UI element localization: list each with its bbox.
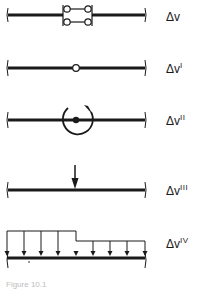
beam-end-right-icon (145, 8, 146, 22)
label-delta-v: Δv (166, 9, 180, 24)
label-superscript: II (180, 113, 185, 122)
distributed-load-arrowheads-icon (5, 251, 148, 256)
figure-caption: Figure 10.1 (6, 280, 46, 289)
beam-end-left-icon (7, 112, 8, 128)
label-base: Δv (166, 10, 180, 24)
row-sliding-link (7, 5, 146, 26)
label-delta-v-ii: ΔvII (166, 113, 185, 128)
label-delta-v-iii: ΔvIII (166, 183, 188, 198)
sliding-link-icon (63, 5, 92, 26)
label-delta-v-i: ΔvI (166, 61, 183, 76)
beam-end-left-icon (7, 8, 8, 22)
label-delta-v-iv: ΔvIV (166, 236, 189, 251)
mark-dot (28, 261, 30, 263)
label-superscript: I (180, 61, 183, 70)
beam-end-right-icon (145, 60, 146, 76)
hinge-icon (73, 65, 80, 72)
point-load-arrowhead-icon (72, 178, 79, 189)
beam-end-right-icon (145, 112, 146, 128)
row-hinge (7, 60, 146, 76)
label-base: Δv (166, 184, 180, 198)
row-moment (7, 105, 146, 134)
label-superscript: IV (180, 236, 189, 245)
moment-point-icon (73, 117, 79, 123)
label-superscript: III (180, 183, 188, 192)
moment-arrowhead-icon (84, 105, 93, 115)
beam-end-left-icon (7, 60, 8, 76)
row-point-load (7, 165, 146, 198)
label-base: Δv (166, 62, 180, 76)
label-base: Δv (166, 114, 180, 128)
row-distributed-load (5, 231, 148, 268)
label-base: Δv (166, 237, 180, 251)
beam-end-right-icon (145, 182, 146, 198)
beam-end-left-icon (7, 182, 8, 198)
